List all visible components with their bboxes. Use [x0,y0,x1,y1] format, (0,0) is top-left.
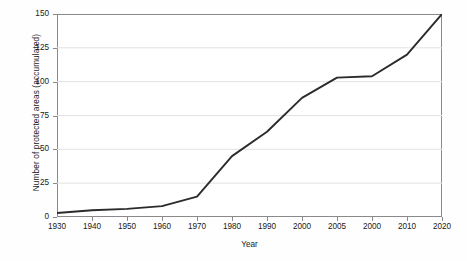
x-tick-mark [92,217,93,221]
x-tick-mark [302,217,303,221]
y-tick-label: 0 [21,213,49,221]
plot-svg [57,14,442,217]
x-tick-mark [442,217,443,221]
y-tick-label: 75 [21,112,49,120]
x-tick-label: 2005 [317,223,357,231]
x-tick-mark [372,217,373,221]
x-tick-mark [127,217,128,221]
x-axis-title: Year [57,240,442,249]
y-tick-label: 100 [21,78,49,86]
x-tick-mark [337,217,338,221]
x-tick-mark [267,217,268,221]
y-tick-label: 25 [21,179,49,187]
line-chart: Number of protected areas (accumulated) … [0,0,467,261]
x-tick-label: 2000 [352,223,392,231]
y-tick-label: 125 [21,44,49,52]
x-tick-label: 1930 [37,223,77,231]
x-tick-label: 2020 [422,223,462,231]
x-tick-label: 1970 [177,223,217,231]
y-tick-label: 150 [21,10,49,18]
x-tick-label: 1990 [247,223,287,231]
x-tick-label: 2000 [282,223,322,231]
x-tick-mark [407,217,408,221]
x-tick-label: 1940 [72,223,112,231]
x-tick-label: 1950 [107,223,147,231]
x-tick-mark [197,217,198,221]
x-tick-mark [232,217,233,221]
x-tick-label: 1980 [212,223,252,231]
x-tick-label: 2010 [387,223,427,231]
y-tick-mark [53,217,57,218]
x-tick-label: 1960 [142,223,182,231]
y-tick-label: 50 [21,145,49,153]
x-tick-mark [162,217,163,221]
